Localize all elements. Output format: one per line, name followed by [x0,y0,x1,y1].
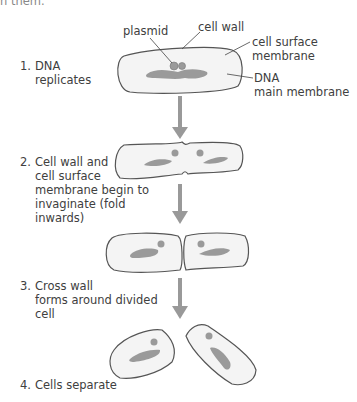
step-1-text: DNA [35,59,60,73]
step-2-text: cell surface [35,169,101,183]
step-3-text: cell [35,307,55,321]
step-2-text: Cell wall and [35,155,108,169]
arrow-1 [172,96,188,139]
label-dna-2: main membrane [254,85,349,99]
cell-stage-3 [106,233,248,272]
plasmid-shape [170,62,178,70]
label-cell-surface-membrane-1: cell surface [252,35,318,49]
label-plasmid: plasmid [123,24,168,38]
label-dna-1: DNA [254,71,279,85]
step-3-text: Cross wall [35,279,93,293]
step-2-text: invaginate (fold [35,197,125,211]
step-3-text: forms around divided [35,293,158,307]
step-1-number: 1. [20,59,31,73]
label-cell-surface-membrane-2: membrane [252,49,315,63]
arrow-2 [172,184,188,224]
step-1-text: replicates [35,73,91,87]
cell-stage-1 [118,48,242,94]
step-4-number: 4. [20,378,31,392]
cell-stage-4 [110,325,256,385]
step-3-number: 3. [20,279,31,293]
arrow-3 [172,278,188,319]
step-4-text: Cells separate [35,378,117,392]
step-2-text: inwards) [35,211,84,225]
step-2-text: membrane begin to [35,183,149,197]
label-cell-wall: cell wall [198,20,244,34]
step-2-number: 2. [20,155,31,169]
cell-stage-2 [115,142,242,179]
